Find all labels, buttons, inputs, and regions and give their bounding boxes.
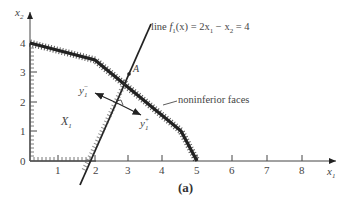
line-equation-label: line f1(x) = 2x1 − x2 = 4 [151,22,250,35]
point-a-label: A [133,64,139,74]
y-axis [30,12,37,161]
figure-caption: (a) [178,180,193,196]
noninferior-faces-label: noninferior faces [178,95,249,106]
y-axis-label: x2 [15,7,23,21]
x-tick-8: 8 [299,165,305,176]
y1-plus-label: y1+ [140,117,149,132]
x-tick-1: 1 [55,165,61,176]
region-boundary-hatching [30,43,96,161]
x-axis-label: x1 [327,166,335,180]
y-tick-2: 2 [20,97,26,108]
region-x1-label: X1 [61,115,72,130]
point-a-marker [127,72,131,76]
faces-leader-line [163,101,177,105]
x-tick-5: 5 [194,165,200,176]
y-tick-0: 0 [20,156,26,167]
y1-minus-arrow [95,93,119,104]
y-tick-1: 1 [20,126,26,137]
x-axis [30,155,336,161]
x-tick-3: 3 [125,165,131,176]
x-tick-6: 6 [229,165,235,176]
y1-plus-arrow [119,104,141,115]
x-tick-2: 2 [93,165,99,176]
y1-minus-label: y1− [79,84,88,99]
x-tick-7: 7 [264,165,270,176]
y-tick-4: 4 [20,38,26,49]
y-tick-3: 3 [20,67,26,78]
x-tick-4: 4 [159,165,165,176]
